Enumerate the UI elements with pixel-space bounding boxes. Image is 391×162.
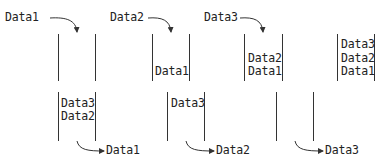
dequeue-arrow-3	[295, 141, 323, 151]
queue-wall-left	[337, 34, 338, 81]
dequeue-arrow-1	[77, 141, 104, 151]
queue-wall-left	[167, 92, 168, 141]
queue-cell: Data1	[248, 65, 282, 78]
queue-wall-right	[189, 34, 190, 81]
outgoing-label: Data2	[216, 144, 250, 157]
incoming-label: Data3	[204, 11, 238, 24]
queue-wall-left	[58, 34, 59, 81]
dequeue-arrow-2	[186, 141, 214, 151]
outgoing-label: Data1	[106, 144, 140, 157]
queue-wall-left	[152, 34, 153, 81]
enqueue-arrow-3	[240, 18, 263, 32]
incoming-label: Data1	[5, 11, 39, 24]
queue-wall-right	[95, 34, 96, 81]
queue-wall-left	[276, 92, 277, 141]
queue-wall-right	[313, 92, 314, 141]
queue-cell: Data1	[341, 65, 375, 78]
queue-cell: Data1	[155, 65, 189, 78]
queue-wall-right	[95, 92, 96, 141]
queue-wall-right	[282, 34, 283, 81]
queue-wall-left	[244, 34, 245, 81]
queue-cell: Data3	[341, 38, 375, 51]
incoming-label: Data2	[110, 11, 144, 24]
outgoing-label: Data3	[325, 144, 359, 157]
enqueue-arrow-2	[148, 18, 171, 32]
queue-cell: Data2	[61, 110, 95, 123]
queue-wall-left	[58, 92, 59, 141]
queue-cell: Data3	[171, 97, 205, 110]
enqueue-arrow-1	[50, 18, 77, 32]
